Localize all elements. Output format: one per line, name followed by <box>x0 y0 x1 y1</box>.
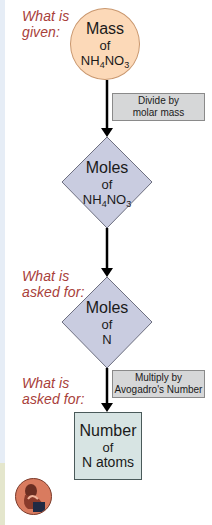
operation-line: Divide by <box>138 95 179 107</box>
label-what-is-given: What is given: <box>22 8 69 40</box>
label-line: given: <box>22 24 69 40</box>
node-title: Mass <box>86 20 124 38</box>
operation-multiply-by-avogadro: Multiply by Avogadro's Number <box>112 370 205 398</box>
node-title: Moles <box>86 299 129 317</box>
node-of: of <box>100 38 111 53</box>
label-line: What is <box>22 8 69 24</box>
node-moles-n-text: Moles of N <box>62 280 152 365</box>
label-line: What is <box>22 375 84 391</box>
label-what-is-asked-2: What is asked for: <box>22 375 84 407</box>
operation-line: Multiply by <box>135 372 182 384</box>
operation-divide-by-molar-mass: Divide by molar mass <box>112 93 205 121</box>
operation-line: molar mass <box>133 107 185 119</box>
label-line: asked for: <box>22 391 84 407</box>
node-of: of <box>102 317 113 332</box>
node-title: Number <box>80 422 137 440</box>
arrow-moles-to-moles-n <box>101 228 113 277</box>
node-mass-text: Mass of NH4NO3 <box>70 8 140 80</box>
operation-line: Avogadro's Number <box>115 384 203 396</box>
node-title: Moles <box>86 159 129 177</box>
node-subject: N <box>102 332 111 347</box>
node-of: of <box>102 177 113 192</box>
node-formula: NH4NO3 <box>83 192 131 207</box>
node-formula: NH4NO3 <box>81 53 129 68</box>
thinker-avatar-icon <box>15 478 52 515</box>
node-of: of <box>103 440 114 455</box>
node-subject: N atoms <box>82 455 134 470</box>
node-moles-nh4no3-text: Moles of NH4NO3 <box>62 140 152 225</box>
node-number-of-atoms-text: Number of N atoms <box>74 412 142 480</box>
